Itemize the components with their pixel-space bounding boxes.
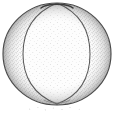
figure-container: Sphere with meridian segments Line drawi… [0, 0, 115, 113]
sphere-illustration: Sphere with meridian segments Line drawi… [0, 0, 115, 113]
